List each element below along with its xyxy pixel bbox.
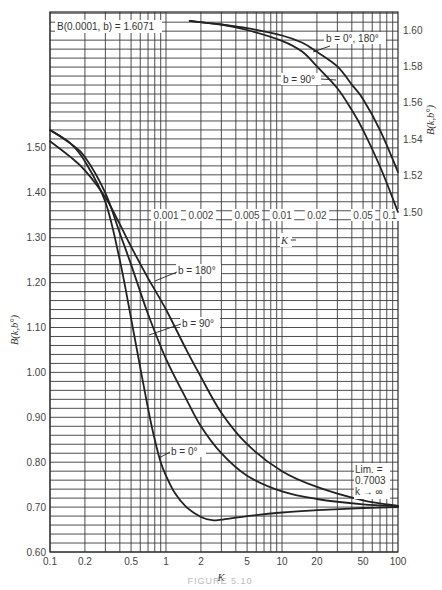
x-tick-label: 5 xyxy=(244,556,250,567)
grid-lines xyxy=(50,12,398,552)
inset-x-tick-label: 0.1 xyxy=(383,210,397,221)
y-axis-ticks: 0.600.700.800.901.001.101.201.301.401.50 xyxy=(27,142,47,557)
inset-x-tick-label: 0.02 xyxy=(307,210,327,221)
inset-x-tick-label: 0.001 xyxy=(153,210,178,221)
x-axis-ticks: 0.10.20.5125102050100 xyxy=(43,556,407,567)
label-b180: b = 180° xyxy=(155,264,221,281)
limit-label: Lim. = 0.7003 k → ∞ xyxy=(354,463,390,499)
inset-x-tick-label: 0.002 xyxy=(188,210,213,221)
chart: 0.600.700.800.901.001.101.201.301.401.50… xyxy=(0,0,442,590)
inset-x-axis-ticks: 0.0010.0020.0050.010.020.050.1 xyxy=(151,209,399,221)
curve-b90 xyxy=(50,130,398,506)
inset-x-title: K xyxy=(280,233,296,247)
limit-line-1: Lim. = xyxy=(355,464,383,475)
inset-b0-180-text: b = 0°, 180° xyxy=(326,33,379,44)
limit-line-2: 0.7003 xyxy=(355,475,386,486)
label-b90: b = 90° xyxy=(149,317,220,335)
y-tick-label: 1.50 xyxy=(27,142,47,153)
x-tick-label: 0.1 xyxy=(43,556,57,567)
y-tick-label: 0.90 xyxy=(27,412,47,423)
y-tick-label: 1.00 xyxy=(27,367,47,378)
x-tick-label: 20 xyxy=(311,556,323,567)
inset-b90-text: b = 90° xyxy=(283,74,315,85)
inset-x-tick-label: 0.05 xyxy=(353,210,373,221)
x-tick-label: 100 xyxy=(390,556,407,567)
y-tick-label: 1.10 xyxy=(27,322,47,333)
x-tick-label: 0.5 xyxy=(124,556,138,567)
label-inset-b90: b = 90° xyxy=(281,73,336,85)
inset-note: B(0.0001, b) = 1.6071 xyxy=(55,20,162,33)
y-tick-label: 1.20 xyxy=(27,277,47,288)
x-tick-label: 1 xyxy=(163,556,169,567)
y-axis-label: B(k,b°) xyxy=(9,314,21,345)
b90-text: b = 90° xyxy=(182,318,214,329)
x-tick-label: 10 xyxy=(276,556,288,567)
inset-y-tick-label: 1.52 xyxy=(403,170,423,181)
y-tick-label: 1.40 xyxy=(27,187,47,198)
inset-y-axis-ticks: 1.501.521.541.561.581.60 xyxy=(403,25,423,218)
curves xyxy=(50,21,398,520)
inset-y-tick-label: 1.60 xyxy=(403,25,423,36)
x-tick-label: 2 xyxy=(198,556,204,567)
inset-x-label: K xyxy=(280,235,289,246)
b0-text: b = 0° xyxy=(171,446,198,457)
b180-text: b = 180° xyxy=(178,265,216,276)
inset-x-tick-label: 0.005 xyxy=(235,210,260,221)
inset-y-tick-label: 1.56 xyxy=(403,97,423,108)
figure-caption: FIGURE 5.10 xyxy=(110,576,330,586)
limit-line-3: k → ∞ xyxy=(355,486,383,497)
y-tick-label: 0.70 xyxy=(27,502,47,513)
inset-y-tick-label: 1.50 xyxy=(403,207,423,218)
inset-y-tick-label: 1.54 xyxy=(403,134,423,145)
inset-note-text: B(0.0001, b) = 1.6071 xyxy=(57,21,154,32)
y-tick-label: 1.30 xyxy=(27,232,47,243)
inset-y-axis-label: B(k,b°) xyxy=(425,104,437,135)
inset-x-tick-label: 0.01 xyxy=(272,210,292,221)
y-tick-label: 0.80 xyxy=(27,457,47,468)
x-tick-label: 0.2 xyxy=(78,556,92,567)
leader-line xyxy=(321,79,336,80)
x-tick-label: 50 xyxy=(358,556,370,567)
inset-y-tick-label: 1.58 xyxy=(403,61,423,72)
